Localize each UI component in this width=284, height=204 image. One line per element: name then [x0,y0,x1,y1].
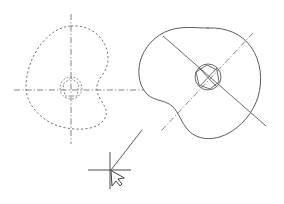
cursor-leader-line [111,130,142,170]
cad-vector-layer [0,0,284,204]
figure-right-finished[interactable] [139,28,266,139]
cad-drawing-canvas[interactable] [0,0,284,204]
right-centerline-dashdot [161,33,253,131]
crosshair-cursor-group[interactable] [88,130,142,189]
mouse-pointer-icon [111,171,124,186]
figure-left-construction[interactable] [14,14,143,144]
